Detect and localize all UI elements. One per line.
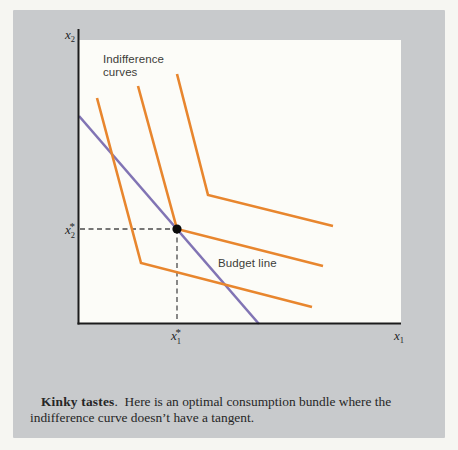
indifference-curves-label-line1: Indifference (103, 53, 164, 65)
y-axis-label: x2 (64, 27, 75, 44)
optimal-x-label: x1* (170, 326, 181, 346)
caption-lead: Kinky tastes (41, 394, 114, 409)
x-axis-label: x1 (393, 328, 404, 345)
caption-gap (118, 394, 125, 409)
optimal-bundle-point (172, 224, 181, 233)
budget-line-label: Budget line (218, 257, 277, 269)
figure-caption: Kinky tastes. Here is an optimal consump… (30, 394, 428, 425)
optimal-y-label: x2* (64, 220, 75, 240)
indifference-curves-label-line2: curves (103, 66, 138, 78)
kinky-tastes-plot: Indifference curves Budget line x2 x1 x2… (0, 0, 458, 450)
page: { "card": { "background": "#c8cacc", "pl… (0, 0, 458, 450)
plot-area (79, 40, 401, 323)
